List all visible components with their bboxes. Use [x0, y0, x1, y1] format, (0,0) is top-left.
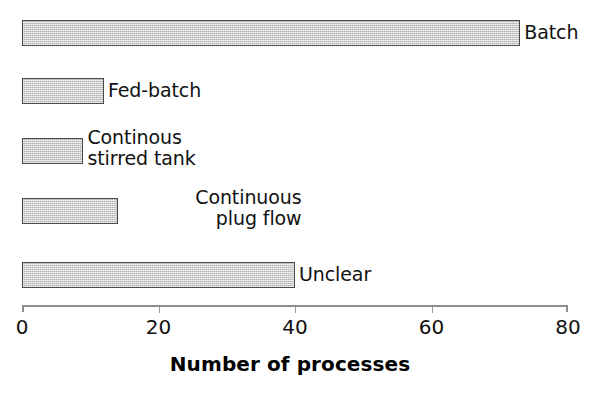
bar-unclear: [22, 262, 295, 288]
bar-label-pfr-line-1: Continuous: [122, 187, 302, 208]
bar-chart: Batch Fed-batch Continousstirred tank Co…: [0, 0, 603, 397]
x-axis-tick-label-80: 80: [555, 316, 580, 338]
x-axis-tick-20: [159, 306, 160, 313]
bar-label-fed-batch-line-1: Fed-batch: [108, 79, 201, 101]
bar-continous-stirred-tank: [22, 138, 83, 164]
bar-label-batch: Batch: [524, 22, 578, 43]
x-axis-right-cap: [566, 305, 568, 312]
bar-label-unclear-line-1: Unclear: [299, 263, 371, 285]
x-axis-tick-60: [432, 306, 433, 313]
x-axis-tick-label-20: 20: [146, 316, 171, 338]
bar-label-batch-line-1: Batch: [524, 21, 578, 43]
x-axis-title: Number of processes: [0, 352, 580, 376]
x-axis-tick-label-60: 60: [419, 316, 444, 338]
bar-label-cstr-line-1: Continous: [87, 127, 195, 148]
bar-label-pfr-line-2: plug flow: [122, 208, 302, 229]
bar-continuous-plug-flow: [22, 198, 118, 224]
x-axis-tick-label-40: 40: [282, 316, 307, 338]
bar-label-cstr-line-2: stirred tank: [87, 148, 195, 169]
bar-fed-batch: [22, 78, 104, 104]
x-axis-tick-40: [295, 306, 296, 313]
bar-label-unclear: Unclear: [299, 264, 371, 285]
x-axis-left-cap: [22, 305, 24, 312]
bar-label-fed-batch: Fed-batch: [108, 80, 201, 101]
bar-batch: [22, 20, 520, 46]
x-axis-tick-label-0: 0: [16, 316, 29, 338]
bar-label-continuous-plug-flow: Continuousplug flow: [122, 187, 302, 229]
bar-label-continous-stirred-tank: Continousstirred tank: [87, 127, 195, 169]
